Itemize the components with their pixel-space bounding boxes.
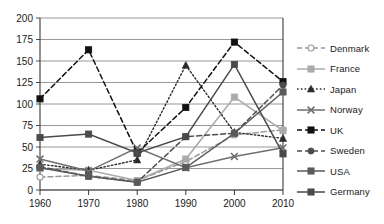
series-germany [37, 61, 286, 157]
legend-item-japan: Japan [296, 79, 384, 100]
data-point-usa [86, 173, 92, 179]
legend-item-sweden: Sweden [296, 141, 384, 162]
y-tick-label: 150 [16, 56, 33, 67]
chart-legend: Denmark France Japan Norway UK Sweden US… [296, 38, 384, 202]
legend-marker [308, 168, 314, 174]
line-chart: 0255075100125150175200196019701980199020… [0, 0, 290, 224]
data-point-germany [134, 150, 140, 156]
y-tick-label: 50 [22, 142, 34, 153]
legend-marker [308, 148, 314, 154]
data-point-sweden [280, 82, 286, 88]
legend-label-usa: USA [326, 166, 350, 177]
legend-key-france [296, 63, 326, 75]
x-tick-label: 2010 [272, 198, 295, 209]
legend-marker [308, 45, 314, 51]
legend-key-usa [296, 165, 326, 177]
legend-label-sweden: Sweden [326, 145, 365, 156]
legend-item-norway: Norway [296, 100, 384, 121]
legend-marker [308, 127, 314, 133]
legend-item-denmark: Denmark [296, 38, 384, 59]
legend-key-germany [296, 186, 326, 198]
data-point-japan [134, 156, 141, 163]
x-tick-label: 1990 [175, 198, 198, 209]
x-tick-label: 1980 [126, 198, 149, 209]
data-point-germany [280, 151, 286, 157]
data-point-usa [183, 165, 189, 171]
data-point-uk [231, 39, 237, 45]
series-line-uk [40, 42, 283, 153]
data-point-uk [183, 104, 189, 110]
y-tick-label: 100 [16, 99, 33, 110]
legend-item-uk: UK [296, 120, 384, 141]
x-tick-label: 1970 [77, 198, 100, 209]
series-line-denmark [40, 130, 283, 181]
legend-marker [308, 189, 314, 195]
series-france [37, 94, 286, 184]
legend-item-germany: Germany [296, 182, 384, 203]
legend-label-france: France [326, 63, 360, 74]
data-point-france [183, 156, 189, 162]
x-tick-label: 2000 [223, 198, 246, 209]
data-point-germany [37, 134, 43, 140]
data-point-japan [182, 62, 189, 69]
data-point-uk [37, 96, 43, 102]
data-point-germany [86, 131, 92, 137]
x-tick-label: 1960 [29, 198, 52, 209]
legend-item-usa: USA [296, 161, 384, 182]
data-point-france [231, 94, 237, 100]
data-point-usa [280, 89, 286, 95]
chart-svg: 0255075100125150175200196019701980199020… [0, 0, 290, 224]
legend-key-japan [296, 83, 326, 95]
legend-key-norway [296, 104, 326, 116]
series-japan [36, 62, 286, 174]
series-line-germany [40, 64, 283, 153]
chart-screenshot: 0255075100125150175200196019701980199020… [0, 0, 384, 224]
legend-label-germany: Germany [326, 186, 370, 197]
legend-label-denmark: Denmark [326, 43, 369, 54]
y-tick-label: 0 [27, 185, 33, 196]
series-uk [37, 39, 286, 156]
y-tick-label: 175 [16, 34, 33, 45]
data-point-germany [183, 134, 189, 140]
y-tick-label: 200 [16, 13, 33, 24]
data-point-france [280, 128, 286, 134]
data-point-usa [134, 179, 140, 185]
y-tick-label: 75 [22, 120, 34, 131]
legend-marker [308, 66, 314, 72]
legend-label-norway: Norway [326, 104, 363, 115]
y-tick-label: 25 [22, 163, 34, 174]
legend-key-denmark [296, 42, 326, 54]
data-point-germany [231, 61, 237, 67]
legend-label-uk: UK [326, 125, 343, 136]
legend-item-france: France [296, 59, 384, 80]
legend-label-japan: Japan [326, 84, 356, 95]
y-tick-label: 125 [16, 77, 33, 88]
data-point-uk [86, 47, 92, 53]
data-point-usa [231, 130, 237, 136]
legend-key-uk [296, 124, 326, 136]
data-point-denmark [37, 174, 43, 180]
data-point-usa [37, 165, 43, 171]
legend-key-sweden [296, 145, 326, 157]
